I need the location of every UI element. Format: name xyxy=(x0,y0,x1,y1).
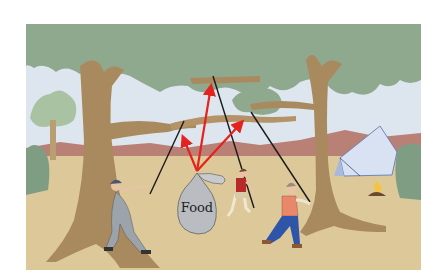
illustration-scene: Food xyxy=(0,0,437,276)
food-label: Food xyxy=(181,200,213,215)
shoe-left xyxy=(262,240,271,244)
shorts xyxy=(235,192,246,198)
shirt xyxy=(282,196,298,216)
shoe-left xyxy=(104,247,113,251)
shirt xyxy=(236,178,246,194)
shoe-right xyxy=(141,250,151,254)
small-tree-trunk xyxy=(50,120,56,160)
shoe-right xyxy=(292,244,302,248)
right-bush xyxy=(395,143,421,200)
